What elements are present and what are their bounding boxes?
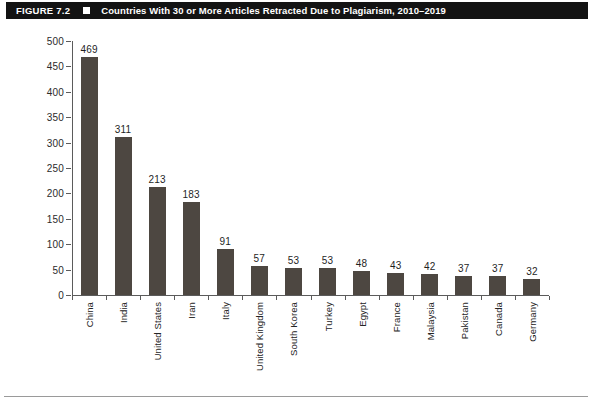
bar bbox=[319, 268, 336, 295]
x-axis-category-text: Canada bbox=[492, 302, 503, 336]
x-axis-category-text: Italy bbox=[220, 302, 231, 320]
x-axis-tick-mark bbox=[311, 296, 312, 300]
bar-value-label: 53 bbox=[311, 255, 345, 266]
bar-chart: 050100150200250300350400450500 469311213… bbox=[0, 19, 591, 379]
bar-value-label: 91 bbox=[208, 236, 242, 247]
bar-group: 53 bbox=[311, 41, 345, 295]
x-axis-tick-mark bbox=[208, 296, 209, 300]
y-axis-tick-mark bbox=[66, 193, 71, 194]
bar bbox=[285, 268, 302, 295]
x-axis-category-text: United States bbox=[152, 302, 163, 360]
x-axis-tick-mark bbox=[481, 296, 482, 300]
y-axis-tick-label: 200 bbox=[24, 188, 64, 199]
y-axis-tick-mark bbox=[66, 143, 71, 144]
bar-group: 43 bbox=[379, 41, 413, 295]
x-axis-tick-mark bbox=[447, 296, 448, 300]
x-axis-category-label: Turkey bbox=[311, 302, 345, 382]
x-axis-category-text: Iran bbox=[186, 302, 197, 319]
bar-group: 42 bbox=[413, 41, 447, 295]
x-axis-category-label: China bbox=[72, 302, 106, 382]
bar bbox=[251, 266, 268, 295]
bar bbox=[489, 276, 506, 295]
y-axis-tick-label: 300 bbox=[24, 137, 64, 148]
x-axis-category-label: Malaysia bbox=[413, 302, 447, 382]
x-axis-tick-mark bbox=[276, 296, 277, 300]
y-axis-tick-label: 150 bbox=[24, 213, 64, 224]
y-axis-tick-label: 50 bbox=[24, 264, 64, 275]
y-axis-tick-label: 100 bbox=[24, 239, 64, 250]
y-axis-tick-mark bbox=[66, 295, 71, 296]
x-axis-category-label: South Korea bbox=[276, 302, 310, 382]
x-axis-tick-mark bbox=[72, 296, 73, 300]
bar-value-label: 43 bbox=[379, 260, 413, 271]
y-axis-tick-mark bbox=[66, 270, 71, 271]
x-axis-category-label: United Kingdom bbox=[242, 302, 276, 382]
x-axis-tick-marks bbox=[72, 296, 549, 301]
x-axis-category-text: United Kingdom bbox=[254, 302, 265, 371]
x-axis-category-label: India bbox=[106, 302, 140, 382]
x-axis-category-label: United States bbox=[140, 302, 174, 382]
square-bullet-icon bbox=[83, 7, 90, 14]
bar-value-label: 311 bbox=[106, 124, 140, 135]
bar bbox=[115, 137, 132, 295]
figure-header: FIGURE 7.2 Countries With 30 or More Art… bbox=[6, 2, 588, 19]
x-axis-category-label: Germany bbox=[515, 302, 549, 382]
y-axis-tick-mark bbox=[66, 244, 71, 245]
y-axis-tick-mark bbox=[66, 41, 71, 42]
bar-group: 37 bbox=[481, 41, 515, 295]
x-axis-category-text: Turkey bbox=[322, 302, 333, 331]
x-axis-category-labels: ChinaIndiaUnited StatesIranItalyUnited K… bbox=[72, 302, 549, 382]
bar bbox=[387, 273, 404, 295]
x-axis-tick-mark bbox=[174, 296, 175, 300]
y-axis-tick-mark bbox=[66, 66, 71, 67]
bar bbox=[353, 271, 370, 295]
y-axis-tick-label: 500 bbox=[24, 36, 64, 47]
x-axis-category-text: Pakistan bbox=[458, 302, 469, 339]
x-axis-category-label: Italy bbox=[208, 302, 242, 382]
bar-group: 37 bbox=[447, 41, 481, 295]
bar-value-label: 213 bbox=[140, 174, 174, 185]
figure-number: FIGURE 7.2 bbox=[16, 5, 70, 16]
bar-group: 53 bbox=[276, 41, 310, 295]
y-axis-tick-mark bbox=[66, 168, 71, 169]
bar-value-label: 37 bbox=[481, 263, 515, 274]
bar bbox=[523, 279, 540, 295]
x-axis-tick-mark bbox=[549, 296, 550, 300]
footer-rule bbox=[4, 396, 588, 397]
x-axis-tick-mark bbox=[379, 296, 380, 300]
x-axis-category-label: Canada bbox=[481, 302, 515, 382]
x-axis-tick-mark bbox=[242, 296, 243, 300]
y-axis-tick-label: 250 bbox=[24, 163, 64, 174]
bar-group: 469 bbox=[72, 41, 106, 295]
bar-value-label: 183 bbox=[174, 189, 208, 200]
x-axis-category-text: India bbox=[118, 302, 129, 323]
x-axis-category-text: China bbox=[84, 302, 95, 327]
bar bbox=[81, 57, 98, 295]
y-axis-tick-label: 450 bbox=[24, 61, 64, 72]
x-axis-tick-mark bbox=[140, 296, 141, 300]
x-axis-category-text: Egypt bbox=[356, 302, 367, 327]
plot-area: 46931121318391575353484342373732 bbox=[72, 41, 549, 295]
x-axis-category-text: South Korea bbox=[288, 302, 299, 356]
y-axis-tick-label: 400 bbox=[24, 86, 64, 97]
bar bbox=[455, 276, 472, 295]
bar-value-label: 469 bbox=[72, 44, 106, 55]
bar bbox=[149, 187, 166, 295]
x-axis-tick-mark bbox=[106, 296, 107, 300]
y-axis-tick-mark bbox=[66, 117, 71, 118]
x-axis-category-label: Egypt bbox=[345, 302, 379, 382]
x-axis-tick-mark bbox=[515, 296, 516, 300]
y-axis-tick-label: 0 bbox=[24, 290, 64, 301]
bar-value-label: 57 bbox=[242, 253, 276, 264]
bar bbox=[183, 202, 200, 295]
x-axis-tick-mark bbox=[345, 296, 346, 300]
bar-value-label: 42 bbox=[413, 261, 447, 272]
bar-group: 57 bbox=[242, 41, 276, 295]
bar-value-label: 53 bbox=[276, 255, 310, 266]
y-axis-tick-label: 350 bbox=[24, 112, 64, 123]
bar-group: 91 bbox=[208, 41, 242, 295]
x-axis-category-text: Germany bbox=[526, 302, 537, 342]
bar-value-label: 32 bbox=[515, 266, 549, 277]
bar-group: 183 bbox=[174, 41, 208, 295]
y-axis-tick-labels: 050100150200250300350400450500 bbox=[20, 19, 64, 379]
